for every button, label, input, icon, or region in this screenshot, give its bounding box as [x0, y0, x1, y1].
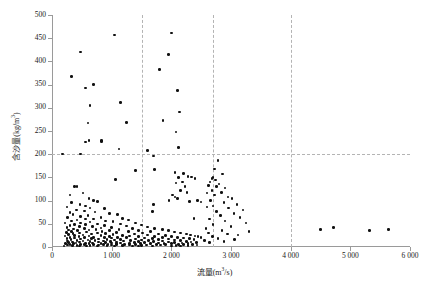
data-point: [177, 146, 180, 149]
x-tick-label: 1 000: [103, 252, 120, 260]
data-point: [175, 131, 178, 134]
y-tick-label: 0: [42, 243, 46, 251]
data-point: [66, 244, 69, 247]
data-point: [89, 244, 92, 247]
data-point: [236, 203, 239, 206]
data-point: [245, 222, 248, 225]
data-point: [161, 236, 164, 239]
x-axis-title-text: 流量: [197, 268, 213, 277]
data-point: [79, 222, 82, 225]
data-point: [102, 243, 105, 246]
data-point: [121, 217, 124, 220]
data-point: [206, 192, 209, 195]
data-point: [242, 209, 245, 212]
data-point: [319, 228, 322, 231]
data-point: [203, 239, 206, 242]
data-point: [181, 181, 184, 184]
data-point: [153, 227, 156, 230]
data-point: [177, 176, 180, 179]
data-point: [233, 212, 236, 215]
data-point: [227, 207, 230, 210]
data-point: [101, 230, 104, 233]
data-point: [158, 68, 161, 71]
data-point: [193, 217, 196, 220]
data-point: [217, 159, 220, 162]
data-point: [137, 229, 140, 232]
data-point: [104, 232, 107, 235]
data-point: [64, 222, 67, 225]
y-tick-label: 150: [35, 173, 46, 181]
data-point: [220, 191, 223, 194]
data-point: [179, 232, 182, 235]
data-point: [223, 201, 226, 204]
data-point: [78, 225, 81, 228]
y-axis-title-text: 含沙量: [12, 137, 21, 161]
data-point: [89, 207, 92, 210]
data-point: [237, 234, 240, 237]
data-point: [162, 119, 165, 122]
data-point: [207, 184, 210, 187]
data-point: [100, 234, 103, 237]
data-point: [212, 223, 215, 226]
data-point: [70, 220, 73, 223]
data-point: [368, 229, 371, 232]
data-point: [133, 233, 136, 236]
data-point: [140, 224, 143, 227]
data-point: [108, 212, 111, 215]
data-point: [159, 244, 162, 247]
scatter-chart-figure: 050100150200250300350400450500 01 0002 0…: [0, 0, 429, 294]
data-point: [108, 229, 111, 232]
data-point: [104, 220, 107, 223]
data-point: [115, 231, 118, 234]
data-point: [224, 187, 227, 190]
data-point: [127, 230, 130, 233]
y-tick-label: 500: [35, 11, 46, 19]
data-point: [215, 185, 218, 188]
data-point: [221, 173, 224, 176]
data-point: [152, 155, 155, 158]
y-axis-title: 含沙量(kg/m3): [10, 82, 21, 192]
data-point: [170, 32, 173, 35]
data-point: [179, 189, 182, 192]
data-point: [151, 245, 154, 248]
data-point: [187, 244, 190, 247]
data-point: [88, 139, 91, 142]
data-point: [123, 243, 126, 246]
data-point: [167, 53, 170, 56]
y-tick-label: 250: [35, 127, 46, 135]
data-point: [89, 221, 92, 224]
data-point: [84, 87, 87, 90]
data-point: [233, 238, 236, 241]
data-point: [87, 122, 90, 125]
data-point: [175, 182, 178, 185]
data-point: [153, 235, 156, 238]
data-point: [157, 238, 160, 241]
data-point: [78, 245, 81, 248]
data-point: [84, 218, 87, 221]
data-point: [211, 235, 214, 238]
data-point: [223, 240, 226, 243]
data-point: [152, 240, 155, 243]
data-point: [75, 209, 78, 212]
data-point: [219, 214, 222, 217]
data-point: [96, 245, 99, 248]
data-point: [103, 224, 106, 227]
data-point: [224, 220, 227, 223]
data-point: [164, 234, 167, 237]
data-point: [121, 244, 124, 247]
x-tick-label: 5 000: [342, 252, 359, 260]
data-point: [157, 233, 160, 236]
data-point: [176, 89, 179, 92]
data-point: [76, 219, 79, 222]
plot-area: [52, 15, 410, 247]
data-point: [218, 183, 221, 186]
data-point: [206, 206, 209, 209]
data-point: [94, 239, 97, 242]
y-tick-label: 300: [35, 103, 46, 111]
data-point: [84, 223, 87, 226]
data-point: [92, 243, 95, 246]
data-point: [61, 153, 64, 156]
data-point: [248, 230, 251, 233]
data-point: [147, 239, 150, 242]
data-point: [88, 229, 91, 232]
